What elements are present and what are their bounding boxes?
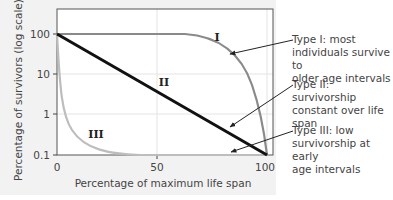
type-2-note: Type II: survivorship constant over life…: [292, 78, 392, 130]
y-tick-0.1: 0.1: [33, 149, 50, 161]
note-line: Type I: most: [292, 33, 392, 46]
note-line: individuals survive to: [292, 46, 392, 72]
type-3-note: Type III: low survivorship at early age …: [292, 124, 392, 176]
note-line: age intervals: [292, 163, 392, 176]
y-tick-100: 100: [30, 28, 50, 40]
x-axis-label: Percentage of maximum life span: [75, 177, 252, 189]
note-line: constant over life: [292, 104, 392, 117]
note-line: Type III: low: [292, 124, 392, 137]
x-tick-0: 0: [54, 161, 61, 173]
x-tick-100: 100: [255, 161, 275, 173]
type-1-label: I: [214, 31, 219, 44]
x-tick-50: 50: [150, 161, 163, 173]
y-axis-label: Percentage of survivors (log scale): [12, 0, 24, 181]
type-3-label: III: [88, 128, 103, 141]
note-line: Type II: survivorship: [292, 78, 392, 104]
y-tick-10: 10: [37, 68, 50, 80]
type-2-label: II: [159, 76, 169, 89]
note-line: survivorship at early: [292, 137, 392, 163]
y-tick-1: 1: [43, 108, 50, 120]
